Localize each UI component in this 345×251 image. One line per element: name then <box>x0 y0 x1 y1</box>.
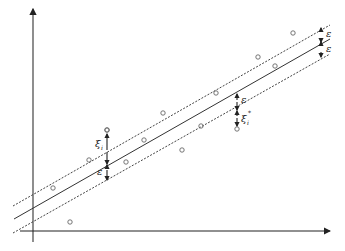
regression-line <box>14 39 330 219</box>
epsilon-label-upper: ε <box>326 28 331 39</box>
xi-star-subscript: i <box>247 119 249 126</box>
svr-diagram: ε ε ξ i ε ε ξ * i <box>0 0 345 251</box>
epsilon-label-lower: ε <box>326 43 331 54</box>
epsilon-label-right: ε <box>241 94 246 105</box>
lower-margin-line <box>13 54 330 233</box>
xi-star-superscript: * <box>248 109 251 116</box>
xi-i-subscript: i <box>101 144 103 151</box>
xi-i-slack-arrow <box>105 128 109 180</box>
epsilon-label-left: ε <box>97 166 102 177</box>
upper-margin-line <box>13 25 330 206</box>
data-points <box>51 31 295 224</box>
